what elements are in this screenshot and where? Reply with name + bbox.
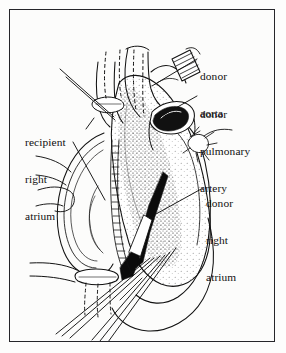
- inferior-vena-cava: [30, 263, 118, 317]
- label-donor-pa-line2: pulmonary: [200, 145, 250, 157]
- medical-illustration-figure: donor aorta donor pulmonary artery donor…: [0, 0, 286, 353]
- label-donor-ra-line2: right: [206, 234, 236, 246]
- label-donor-right-atrium: donor right atrium: [206, 172, 236, 308]
- label-recipient-ra-line3: atrium: [25, 210, 66, 222]
- label-donor-ra-line3: atrium: [206, 271, 236, 283]
- label-recipient-right-atrium: recipient right atrium: [25, 111, 66, 247]
- label-donor-pa-line1: donor: [200, 108, 250, 120]
- label-donor-ra-line1: donor: [206, 197, 236, 209]
- label-recipient-ra-line1: recipient: [25, 136, 66, 148]
- label-donor-aorta-line1: donor: [200, 70, 227, 82]
- aorta-anastomosis-cuff: [172, 48, 200, 81]
- label-recipient-ra-line2: right: [25, 173, 66, 185]
